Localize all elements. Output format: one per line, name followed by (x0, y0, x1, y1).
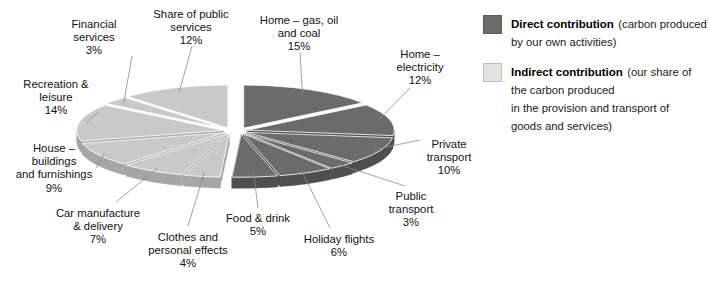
slice-label-public-transport: Public transport 3% (378, 190, 444, 230)
slice-label-recreation: Recreation & leisure 14% (8, 78, 104, 118)
leader-line (179, 46, 192, 92)
legend-title-indirect: Indirect contribution (511, 66, 623, 78)
chart-legend: Direct contribution (carbon produced by … (483, 14, 707, 146)
leader-line (378, 88, 410, 120)
pie-chart: Home – gas, oil and coal 15% Home – elec… (0, 0, 709, 285)
slice-label-private-transport: Private transport 10% (413, 138, 485, 178)
slice-label-public-services: Share of public services 12% (143, 8, 239, 48)
legend-item-indirect: Indirect contribution (our share of the … (483, 62, 707, 134)
slice-label-car-manufacture: Car manufacture & delivery 7% (42, 207, 154, 247)
slice-label-holiday-flights: Holiday flights 6% (293, 233, 385, 259)
legend-title-direct: Direct contribution (511, 18, 614, 30)
slice-label-house-buildings: House – buildings and furnishings 9% (6, 142, 102, 195)
slice-label-financial-services: Financial services 3% (57, 18, 131, 58)
legend-item-direct: Direct contribution (carbon produced by … (483, 14, 707, 50)
legend-swatch-indirect-icon (483, 63, 502, 82)
legend-swatch-direct-icon (483, 15, 502, 34)
slice-label-home-gas: Home – gas, oil and coal 15% (245, 14, 353, 54)
slice-label-home-electricity: Home – electricity 12% (381, 48, 459, 88)
